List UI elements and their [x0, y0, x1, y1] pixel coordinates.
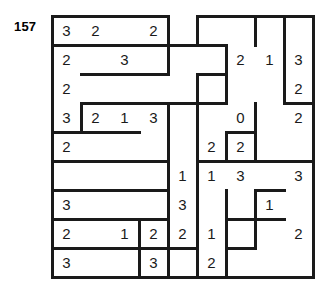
- region-border-horizontal: [196, 15, 228, 18]
- grid-cell-r6-c7[interactable]: 1: [255, 190, 284, 219]
- grid-cell-r1-c2[interactable]: 3: [110, 45, 139, 74]
- grid-cell-r0-c5[interactable]: [197, 16, 226, 45]
- grid-cell-r8-c5[interactable]: 2: [197, 248, 226, 277]
- grid-cell-r1-c8[interactable]: 3: [284, 45, 313, 74]
- region-border-vertical: [225, 218, 228, 250]
- grid-cell-r2-c4[interactable]: [168, 74, 197, 103]
- grid-cell-r3-c0[interactable]: 3: [52, 103, 81, 132]
- grid-cell-r8-c8[interactable]: [284, 248, 313, 277]
- grid-cell-r8-c1[interactable]: [81, 248, 110, 277]
- region-border-horizontal: [167, 276, 199, 279]
- grid-cell-r6-c5[interactable]: [197, 190, 226, 219]
- region-border-horizontal: [109, 73, 141, 76]
- region-border-horizontal: [167, 247, 199, 250]
- region-border-vertical: [312, 160, 315, 192]
- grid-cell-r0-c3[interactable]: 2: [139, 16, 168, 45]
- grid-cell-r0-c0[interactable]: 3: [52, 16, 81, 45]
- grid-cell-r0-c4[interactable]: [168, 16, 197, 45]
- grid-cell-r0-c2[interactable]: [110, 16, 139, 45]
- grid-cell-r7-c3[interactable]: 2: [139, 219, 168, 248]
- grid-cell-r4-c8[interactable]: [284, 132, 313, 161]
- clue-digit: 1: [110, 219, 139, 248]
- grid-cell-r7-c2[interactable]: 1: [110, 219, 139, 248]
- grid-cell-r3-c2[interactable]: 1: [110, 103, 139, 132]
- grid-cell-r2-c6[interactable]: [226, 74, 255, 103]
- grid-cell-r3-c3[interactable]: 3: [139, 103, 168, 132]
- grid-cell-r6-c2[interactable]: [110, 190, 139, 219]
- grid-cell-r5-c2[interactable]: [110, 161, 139, 190]
- region-border-vertical: [283, 73, 286, 105]
- grid-cell-r4-c4[interactable]: [168, 132, 197, 161]
- grid-cell-r4-c1[interactable]: [81, 132, 110, 161]
- grid-cell-r0-c1[interactable]: 2: [81, 16, 110, 45]
- grid-cell-r1-c4[interactable]: [168, 45, 197, 74]
- grid-cell-r2-c0[interactable]: 2: [52, 74, 81, 103]
- grid-cell-r7-c0[interactable]: 2: [52, 219, 81, 248]
- grid-cell-r3-c1[interactable]: 2: [81, 103, 110, 132]
- grid-cell-r5-c7[interactable]: [255, 161, 284, 190]
- grid-cell-r7-c6[interactable]: [226, 219, 255, 248]
- grid-cell-r4-c6[interactable]: 2: [226, 132, 255, 161]
- grid-cell-r0-c7[interactable]: [255, 16, 284, 45]
- grid-cell-r7-c4[interactable]: 2: [168, 219, 197, 248]
- region-border-vertical: [51, 189, 54, 221]
- region-border-horizontal: [196, 73, 228, 76]
- grid-cell-r8-c0[interactable]: 3: [52, 248, 81, 277]
- region-border-horizontal: [109, 218, 141, 221]
- grid-cell-r0-c6[interactable]: [226, 16, 255, 45]
- region-border-horizontal: [225, 276, 257, 279]
- grid-cell-r1-c5[interactable]: [197, 45, 226, 74]
- grid-cell-r3-c5[interactable]: [197, 103, 226, 132]
- grid-cell-r8-c3[interactable]: 3: [139, 248, 168, 277]
- grid-cell-r6-c6[interactable]: [226, 190, 255, 219]
- grid-cell-r7-c7[interactable]: [255, 219, 284, 248]
- grid-cell-r4-c5[interactable]: 2: [197, 132, 226, 161]
- grid-cell-r5-c6[interactable]: 3: [226, 161, 255, 190]
- grid-cell-r1-c3[interactable]: [139, 45, 168, 74]
- grid-cell-r3-c8[interactable]: 2: [284, 103, 313, 132]
- grid-cell-r0-c8[interactable]: [284, 16, 313, 45]
- grid-cell-r3-c4[interactable]: [168, 103, 197, 132]
- grid-cell-r4-c7[interactable]: [255, 132, 284, 161]
- grid-cell-r8-c6[interactable]: [226, 248, 255, 277]
- grid-cell-r7-c8[interactable]: 2: [284, 219, 313, 248]
- grid-cell-r4-c0[interactable]: 2: [52, 132, 81, 161]
- grid-cell-r3-c6[interactable]: 0: [226, 103, 255, 132]
- grid-cell-r5-c4[interactable]: 1: [168, 161, 197, 190]
- clue-digit: 2: [52, 132, 81, 161]
- grid-cell-r4-c2[interactable]: [110, 132, 139, 161]
- region-border-horizontal: [138, 102, 170, 105]
- grid-cell-r5-c3[interactable]: [139, 161, 168, 190]
- grid-cell-r6-c1[interactable]: [81, 190, 110, 219]
- grid-cell-r5-c0[interactable]: [52, 161, 81, 190]
- grid-cell-r7-c1[interactable]: [81, 219, 110, 248]
- grid-cell-r8-c2[interactable]: [110, 248, 139, 277]
- grid-cell-r2-c7[interactable]: [255, 74, 284, 103]
- grid-cell-r5-c1[interactable]: [81, 161, 110, 190]
- puzzle-grid: 32223213223213022221133331212212332: [52, 16, 313, 277]
- grid-cell-r2-c8[interactable]: 2: [284, 74, 313, 103]
- grid-cell-r2-c1[interactable]: [81, 74, 110, 103]
- grid-cell-r5-c5[interactable]: 1: [197, 161, 226, 190]
- grid-cell-r2-c3[interactable]: [139, 74, 168, 103]
- region-border-vertical: [80, 102, 83, 134]
- grid-cell-r1-c6[interactable]: 2: [226, 45, 255, 74]
- grid-cell-r3-c7[interactable]: [255, 103, 284, 132]
- region-border-horizontal: [138, 218, 170, 221]
- grid-cell-r6-c4[interactable]: 3: [168, 190, 197, 219]
- grid-cell-r1-c1[interactable]: [81, 45, 110, 74]
- grid-cell-r4-c3[interactable]: [139, 132, 168, 161]
- grid-cell-r6-c3[interactable]: [139, 190, 168, 219]
- grid-cell-r1-c0[interactable]: 2: [52, 45, 81, 74]
- grid-cell-r6-c8[interactable]: [284, 190, 313, 219]
- grid-cell-r7-c5[interactable]: 1: [197, 219, 226, 248]
- clue-digit: 3: [52, 248, 81, 277]
- grid-cell-r8-c7[interactable]: [255, 248, 284, 277]
- grid-cell-r5-c8[interactable]: 3: [284, 161, 313, 190]
- grid-cell-r2-c2[interactable]: [110, 74, 139, 103]
- region-border-horizontal: [254, 218, 286, 221]
- grid-cell-r2-c5[interactable]: [197, 74, 226, 103]
- grid-cell-r8-c4[interactable]: [168, 248, 197, 277]
- grid-cell-r1-c7[interactable]: 1: [255, 45, 284, 74]
- grid-cell-r6-c0[interactable]: 3: [52, 190, 81, 219]
